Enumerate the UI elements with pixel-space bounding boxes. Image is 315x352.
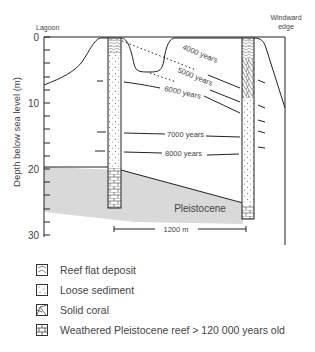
windward-label-line1: Windward (270, 14, 301, 21)
isochron-5000-label: 5000 years (176, 66, 214, 88)
isochron-4000-label: 4000 years (181, 43, 219, 65)
scale-bar-label: 1200 m (163, 225, 188, 234)
isochron-7000-label: 7000 years (167, 130, 204, 139)
pleistocene-label: Pleistocene (174, 203, 226, 214)
y-tick-10: 10 (28, 98, 40, 109)
isochron-6000-label: 6000 years (164, 84, 202, 101)
pleistocene-basement (44, 167, 243, 224)
y-tick-0: 0 (33, 32, 39, 43)
legend-label: Weathered Pleistocene reef > 120 000 yea… (60, 324, 285, 336)
left-drill-core (108, 38, 121, 208)
legend-label: Loose sediment (60, 284, 134, 296)
legend-item-solid-coral: Solid coral (36, 300, 285, 320)
legend-item-loose-sediment: Loose sediment (36, 280, 285, 300)
y-tick-30: 30 (28, 230, 40, 241)
right-drill-core (242, 38, 254, 219)
lagoon-label: Lagoon (36, 24, 59, 32)
isochron-8000-label: 8000 years (165, 149, 202, 158)
y-tick-20: 20 (28, 164, 40, 175)
legend-label: Solid coral (60, 304, 109, 316)
legend: Reef flat deposit Loose sediment Solid c… (36, 260, 285, 340)
legend-label: Reef flat deposit (60, 264, 136, 276)
weathered-pleistocene-swatch-icon (36, 324, 48, 336)
y-axis-label: Depth below sea level (m) (11, 77, 22, 187)
reef-flat-deposit-swatch-icon (36, 264, 48, 276)
loose-sediment-swatch-icon (36, 284, 48, 296)
legend-item-reef-flat: Reef flat deposit (36, 260, 285, 280)
windward-slope-profile (254, 38, 285, 108)
windward-label-line2: edge (278, 23, 294, 31)
legend-item-weathered-pleistocene: Weathered Pleistocene reef > 120 000 yea… (36, 320, 285, 340)
solid-coral-swatch-icon (36, 304, 48, 316)
lagoon-slope-profile (44, 38, 108, 85)
